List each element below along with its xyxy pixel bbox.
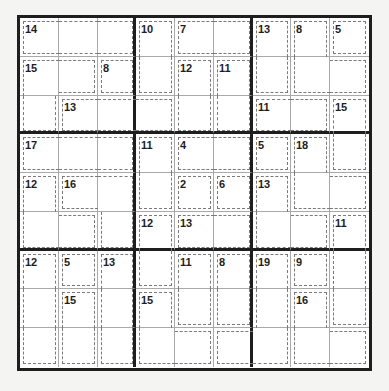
cell-r2c7[interactable] [253, 57, 291, 96]
cage-sum-label: 18 [296, 140, 308, 151]
cell-r7c4[interactable] [136, 251, 175, 289]
cage-sum-label: 8 [219, 257, 225, 268]
cage-sum-label: 13 [258, 179, 270, 190]
cell-r2c9[interactable] [330, 57, 369, 96]
cell-r6c8[interactable] [291, 212, 330, 251]
cell-r6c7[interactable] [253, 212, 291, 251]
cage-sum-label: 17 [25, 140, 37, 151]
killer-sudoku-board: 1410713851581211131115171145181216261312… [17, 15, 372, 371]
cell-r1c2[interactable] [59, 18, 98, 57]
cage-sum-label: 13 [103, 257, 115, 268]
cage-sum-label: 15 [64, 295, 76, 306]
cage-sum-label: 11 [335, 218, 347, 229]
cell-r7c9[interactable] [330, 251, 369, 289]
cage-sum-label: 9 [296, 257, 302, 268]
cell-r8c9[interactable] [330, 289, 369, 328]
cell-r4c6[interactable] [214, 134, 253, 173]
cell-r9c3[interactable] [98, 328, 136, 367]
cell-r9c8[interactable] [291, 328, 330, 367]
cell-r9c2[interactable] [59, 328, 98, 367]
cell-r2c2[interactable] [59, 57, 98, 96]
cell-r2c4[interactable] [136, 57, 175, 96]
cell-r6c2[interactable] [59, 212, 98, 251]
cell-r8c7[interactable] [253, 289, 291, 328]
cage-sum-label: 11 [180, 257, 192, 268]
cage-sum-label: 15 [141, 295, 153, 306]
cage-sum-label: 8 [296, 24, 302, 35]
cage-sum-label: 15 [25, 63, 37, 74]
cell-r9c9[interactable] [330, 328, 369, 367]
cell-r9c6[interactable] [214, 328, 253, 367]
cell-r9c5[interactable] [175, 328, 214, 367]
cell-r5c3[interactable] [98, 173, 136, 212]
cage-sum-label: 10 [141, 24, 153, 35]
cage-sum-label: 4 [180, 140, 186, 151]
cell-r3c4[interactable] [136, 96, 175, 134]
cell-r9c4[interactable] [136, 328, 175, 367]
cell-r3c1[interactable] [20, 96, 59, 134]
cell-r3c3[interactable] [98, 96, 136, 134]
cage-sum-label: 11 [141, 140, 153, 151]
cage-sum-label: 12 [25, 179, 37, 190]
cell-r6c1[interactable] [20, 212, 59, 251]
cage-sum-label: 2 [180, 179, 186, 190]
cage-sum-label: 5 [335, 24, 341, 35]
cage-sum-label: 11 [258, 102, 270, 113]
cell-r8c3[interactable] [98, 289, 136, 328]
cage-sum-label: 16 [296, 295, 308, 306]
cell-r9c7[interactable] [253, 328, 291, 367]
cell-r3c5[interactable] [175, 96, 214, 134]
cell-r4c3[interactable] [98, 134, 136, 173]
cell-r9c1[interactable] [20, 328, 59, 367]
cell-r6c3[interactable] [98, 212, 136, 251]
cell-r5c4[interactable] [136, 173, 175, 212]
cell-r5c9[interactable] [330, 173, 369, 212]
cage-sum-label: 12 [25, 257, 37, 268]
cell-r2c8[interactable] [291, 57, 330, 96]
cell-r8c1[interactable] [20, 289, 59, 328]
cage-sum-label: 13 [180, 218, 192, 229]
cell-r4c2[interactable] [59, 134, 98, 173]
cage-sum-label: 8 [103, 63, 109, 74]
cell-r6c6[interactable] [214, 212, 253, 251]
cage-sum-label: 12 [141, 218, 153, 229]
cage-sum-label: 13 [64, 102, 76, 113]
cell-r3c8[interactable] [291, 96, 330, 134]
cell-r4c9[interactable] [330, 134, 369, 173]
cell-r8c5[interactable] [175, 289, 214, 328]
cage-sum-label: 6 [219, 179, 225, 190]
cell-r5c8[interactable] [291, 173, 330, 212]
cell-r1c3[interactable] [98, 18, 136, 57]
cage-sum-label: 12 [180, 63, 192, 74]
cage-sum-label: 7 [180, 24, 186, 35]
cell-r8c6[interactable] [214, 289, 253, 328]
cage-sum-label: 5 [64, 257, 70, 268]
cell-r1c6[interactable] [214, 18, 253, 57]
cage-sum-label: 5 [258, 140, 264, 151]
cell-r3c6[interactable] [214, 96, 253, 134]
cage-sum-label: 14 [25, 24, 37, 35]
cage-sum-label: 11 [219, 63, 231, 74]
cage-sum-label: 16 [64, 179, 76, 190]
cage-sum-label: 13 [258, 24, 270, 35]
cage-sum-label: 15 [335, 102, 347, 113]
cage-sum-label: 19 [258, 257, 270, 268]
